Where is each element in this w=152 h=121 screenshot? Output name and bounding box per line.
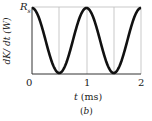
x-tick-2: 2 (138, 77, 144, 88)
y-max-label: Rs (20, 1, 31, 14)
figure-caption: (b) (80, 106, 93, 116)
data-curve (32, 8, 141, 73)
x-tick-0: 0 (26, 77, 32, 88)
y-axis-title: dK/ dt (W) (2, 18, 12, 65)
x-axis-title: t (ms) (74, 91, 102, 102)
x-tick-1: 1 (84, 77, 90, 88)
chart-plot (0, 0, 152, 121)
